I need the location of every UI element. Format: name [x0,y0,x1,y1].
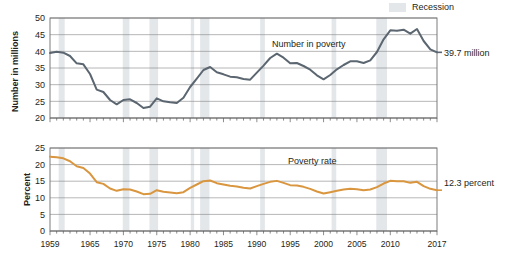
x-tick-label: 2005 [347,239,366,249]
chart-canvas: 2025303540455005101520251959196519701975… [0,0,510,259]
y-tick-label: 0 [40,226,45,236]
x-tick-label: 1985 [214,239,233,249]
x-tick-label: 2000 [314,239,333,249]
poverty-figure: Recession Number in millions Percent Num… [0,0,510,259]
recession-band [59,148,65,231]
chart-panel-1: 0510152025195919651970197519801985199019… [35,143,447,248]
recession-band [260,148,265,231]
x-tick-label: 1990 [247,239,266,249]
legend-label-recession: Recession [412,2,454,12]
x-tick-label: 2017 [427,239,446,249]
y-tick-label: 25 [35,97,45,107]
x-tick-label: 1959 [40,239,59,249]
x-tick-label: 1975 [147,239,166,249]
y-tick-label: 35 [35,63,45,73]
x-tick-label: 1995 [281,239,300,249]
bottom-end-value-annotation: 12.3 percent [444,178,494,188]
y-tick-label: 5 [40,210,45,220]
top-series-label: Number in poverty [272,39,346,49]
y-tick-label: 50 [35,13,45,23]
y-tick-label: 20 [35,113,45,123]
top-chart-y-axis-label: Number in millions [10,31,20,112]
y-tick-label: 25 [35,143,45,153]
y-tick-label: 10 [35,193,45,203]
recession-swatch-icon [389,3,406,12]
recession-band [191,148,194,231]
y-tick-label: 15 [35,176,45,186]
x-tick-label: 1970 [114,239,133,249]
y-tick-label: 20 [35,160,45,170]
recession-band [376,148,387,231]
x-tick-label: 2010 [381,239,400,249]
x-tick-label: 1980 [181,239,200,249]
y-tick-label: 40 [35,47,45,57]
bottom-chart-y-axis-label: Percent [22,173,32,206]
x-tick-label: 1965 [80,239,99,249]
recession-band [200,148,209,231]
y-tick-label: 45 [35,30,45,40]
y-tick-label: 30 [35,80,45,90]
top-end-value-annotation: 39.7 million [444,48,490,58]
legend: Recession [389,2,454,12]
chart-panel-0: 20253035404550 [35,13,442,123]
bottom-series-label: Poverty rate [288,156,337,166]
